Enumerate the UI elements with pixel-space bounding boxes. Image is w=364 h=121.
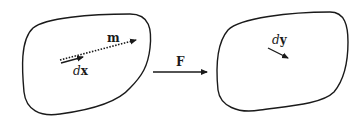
label-m: m [107,31,120,45]
label-dx: dx [73,64,89,78]
current-body-outline [217,12,348,111]
deformation-mapping-diagram: m dx F dy [0,0,364,121]
label-dy: dy [272,33,288,47]
vector-dx-arrow [61,57,83,63]
vector-dy-arrow [268,48,288,58]
vector-m-arrow [60,40,136,60]
label-f: F [176,55,185,69]
